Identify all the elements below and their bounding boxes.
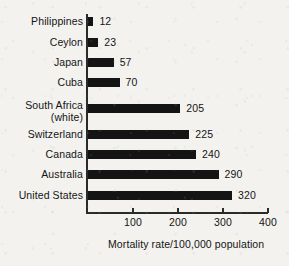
category-label: Philippines [31, 16, 83, 28]
x-axis-tick-label: 400 [259, 216, 277, 228]
category-label-line1: Canada [46, 148, 83, 160]
bar-value-label: 225 [195, 128, 213, 140]
bar-row: Canada240 [0, 145, 289, 163]
bar [88, 58, 114, 67]
bar-row: Australia290 [0, 165, 289, 183]
bar-value-label: 320 [238, 189, 256, 201]
bar-row: Ceylon23 [0, 33, 289, 51]
mortality-bar-chart: Philippines12Ceylon23Japan57Cuba70South … [0, 0, 289, 266]
bar-value-label: 290 [225, 168, 243, 180]
x-axis-tick [132, 208, 133, 213]
category-label-line1: South Africa [25, 99, 83, 111]
category-label-line1: Japan [54, 56, 83, 68]
bar-row: Japan57 [0, 53, 289, 71]
x-axis-tick [222, 208, 223, 213]
category-label: South Africa(white) [25, 100, 83, 123]
bar [88, 150, 196, 159]
x-axis-tick-label: 300 [214, 216, 232, 228]
category-label: Canada [46, 149, 83, 161]
bar-row: United States320 [0, 186, 289, 204]
category-label-line1: United States [19, 189, 83, 201]
x-axis-title: Mortality rate/100,000 population [108, 238, 264, 250]
category-label-line1: Philippines [31, 15, 83, 27]
bar-row: Switzerland225 [0, 125, 289, 143]
x-axis-tick [177, 208, 178, 213]
bar-row: Cuba70 [0, 73, 289, 91]
bar [88, 104, 180, 113]
category-label: Cuba [57, 77, 83, 89]
bar-value-label: 12 [99, 15, 111, 27]
x-axis-tick-label: 200 [169, 216, 187, 228]
bar [88, 191, 232, 200]
bar-row: South Africa(white)205 [0, 99, 289, 117]
bar [88, 78, 120, 87]
category-label: Australia [41, 169, 83, 181]
bar-value-label: 23 [104, 36, 116, 48]
category-label: United States [19, 190, 83, 202]
x-axis-tick [267, 208, 268, 213]
bar [88, 17, 93, 26]
bar-value-label: 240 [202, 148, 220, 160]
category-label-line1: Ceylon [50, 36, 83, 48]
bar-value-label: 57 [120, 56, 132, 68]
bar-value-label: 205 [186, 102, 204, 114]
category-label-line2: (white) [25, 112, 83, 124]
category-label: Switzerland [28, 129, 83, 141]
category-label-line1: Australia [41, 168, 83, 180]
category-label: Japan [54, 57, 83, 69]
bar-row: Philippines12 [0, 12, 289, 30]
bar [88, 130, 189, 139]
bar-value-label: 70 [126, 76, 138, 88]
bar [88, 38, 98, 47]
category-label-line1: Cuba [57, 76, 83, 88]
x-axis-tick-label: 100 [124, 216, 142, 228]
bar [88, 170, 219, 179]
category-label: Ceylon [50, 37, 83, 49]
category-label-line1: Switzerland [28, 128, 83, 140]
